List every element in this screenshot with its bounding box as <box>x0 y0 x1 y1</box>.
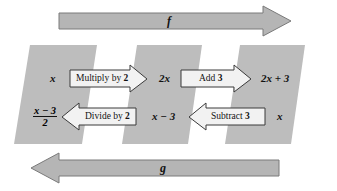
forward-middle-value: 2x <box>159 73 170 84</box>
stage-band-right <box>225 45 305 144</box>
subtract-3-label-prefix: Subtract <box>211 111 245 121</box>
subtract-3-label-number: 3 <box>245 111 250 121</box>
forward-start-value: x <box>50 73 56 84</box>
divide-by-2-label-number: 2 <box>125 111 130 121</box>
stage-bands <box>14 45 305 144</box>
add-3-label-number: 3 <box>218 73 223 83</box>
divide-by-2-label-prefix: Divide by <box>85 111 125 121</box>
multiply-by-2-label-number: 2 <box>124 73 129 83</box>
add-3-label-prefix: Add <box>199 73 218 83</box>
subtract-3-label: Subtract 3 <box>211 112 250 122</box>
inverse-function-arrow <box>31 153 279 183</box>
forward-function-arrow <box>59 6 291 36</box>
function-machine-diagram: f g x 2x 2x + 3 Multiply by 2 Add 3 x − … <box>0 0 337 191</box>
inverse-end-fraction-numerator: x − 3 <box>33 105 57 117</box>
diagram-shapes-layer <box>0 0 337 191</box>
multiply-by-2-label: Multiply by 2 <box>76 74 128 84</box>
inverse-function-label: g <box>160 162 166 174</box>
add-3-label: Add 3 <box>199 74 223 84</box>
forward-end-value: 2x + 3 <box>261 73 289 84</box>
stage-band-left <box>14 45 97 144</box>
inverse-end-fraction-denominator: 2 <box>33 117 57 128</box>
divide-by-2-label: Divide by 2 <box>85 112 130 122</box>
inverse-middle-value: x − 3 <box>152 111 175 122</box>
inverse-start-value: x <box>277 111 283 122</box>
forward-function-label: f <box>167 15 171 27</box>
inverse-end-fraction: x − 3 2 <box>33 105 57 129</box>
stage-band-middle <box>122 45 202 144</box>
multiply-by-2-label-prefix: Multiply by <box>76 73 124 83</box>
